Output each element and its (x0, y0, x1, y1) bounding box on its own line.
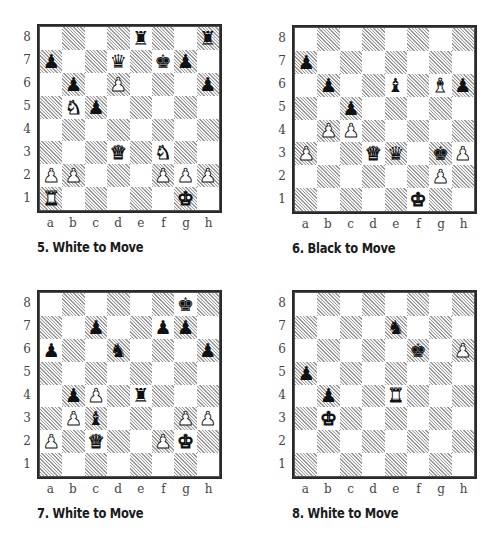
file-label: f (152, 482, 175, 496)
square-d7: ♛ (107, 50, 129, 73)
file-label: e (130, 482, 153, 496)
square-a6: ♟ (40, 339, 62, 362)
square-b1 (62, 453, 84, 476)
square-e6 (130, 339, 152, 362)
square-b2 (317, 165, 339, 188)
file-label: c (84, 482, 107, 496)
file-labels: abcdefgh (39, 216, 220, 230)
square-d6: ♞ (107, 339, 129, 362)
rank-label: 6 (276, 73, 288, 96)
diagram-5: 87654321 ♜♜♟♛♚♟♟♟♟♞♟♛♞♟♟♟♟♟♜♚ abcdefgh 5… (21, 11, 261, 281)
white-pawn-icon: ♟ (298, 144, 315, 163)
square-d7 (362, 316, 384, 339)
square-a1 (295, 453, 317, 476)
square-d7 (107, 316, 129, 339)
square-c8 (340, 293, 362, 316)
black-rook-icon: ♜ (199, 29, 216, 48)
square-f2 (407, 165, 429, 188)
rank-label: 7 (276, 50, 288, 73)
file-label: g (430, 482, 453, 496)
black-queen-icon: ♛ (387, 144, 404, 163)
square-b1 (317, 453, 339, 476)
file-label: b (62, 216, 85, 230)
black-king-icon: ♚ (155, 52, 172, 71)
file-label: f (407, 482, 430, 496)
square-a6 (295, 74, 317, 97)
square-h6: ♟ (197, 339, 219, 362)
square-e7 (130, 316, 152, 339)
rank-label: 5 (276, 361, 288, 384)
square-e8 (385, 28, 407, 51)
black-pawn-icon: ♟ (177, 318, 194, 337)
square-c6 (85, 73, 107, 96)
square-g2: ♟ (429, 165, 451, 188)
square-g2: ♟ (174, 164, 196, 187)
square-c7 (340, 316, 362, 339)
white-pawn-icon: ♟ (110, 75, 127, 94)
black-pawn-icon: ♟ (65, 75, 82, 94)
white-rook-icon: ♜ (387, 386, 404, 405)
square-c8 (340, 28, 362, 51)
black-rook-icon: ♜ (132, 386, 149, 405)
chessboard: ♚♟♟♟♟♞♟♟♟♜♟♝♟♟♟♛♟♚ (40, 293, 219, 476)
square-e5 (385, 362, 407, 385)
square-g5 (429, 97, 451, 120)
square-b6: ♟ (62, 73, 84, 96)
square-a4 (295, 120, 317, 143)
square-d7 (362, 51, 384, 74)
rank-label: 6 (276, 338, 288, 361)
white-pawn-icon: ♟ (177, 409, 194, 428)
square-f6: ♚ (407, 339, 429, 362)
square-a8 (40, 293, 62, 316)
square-d2 (362, 430, 384, 453)
square-h6: ♟ (452, 339, 474, 362)
square-g3: ♟ (174, 407, 196, 430)
square-d2 (362, 165, 384, 188)
square-f3: ♞ (152, 141, 174, 164)
square-h5 (197, 96, 219, 119)
square-b2: ♟ (62, 164, 84, 187)
square-e6: ♝ (385, 74, 407, 97)
black-king-icon: ♚ (432, 144, 449, 163)
square-c3 (340, 407, 362, 430)
square-g3 (174, 141, 196, 164)
file-label: d (107, 482, 130, 496)
rank-label: 5 (276, 96, 288, 119)
square-g4 (174, 385, 196, 408)
rank-label: 2 (21, 429, 33, 452)
white-pawn-icon: ♟ (454, 341, 471, 360)
rank-label: 4 (21, 118, 33, 141)
square-d5 (107, 362, 129, 385)
square-h1 (452, 188, 474, 211)
square-h2 (452, 430, 474, 453)
square-d4 (107, 119, 129, 142)
rank-label: 7 (21, 49, 33, 72)
square-b2 (317, 430, 339, 453)
square-c2 (340, 165, 362, 188)
square-a7 (295, 316, 317, 339)
square-a6 (295, 339, 317, 362)
black-bishop-icon: ♝ (87, 409, 104, 428)
rank-label: 2 (21, 163, 33, 186)
rank-label: 1 (276, 452, 288, 475)
rank-label: 3 (21, 406, 33, 429)
white-pawn-icon: ♟ (177, 166, 194, 185)
square-c8 (85, 293, 107, 316)
square-c8 (85, 27, 107, 50)
square-b8 (62, 293, 84, 316)
white-knight-icon: ♞ (155, 143, 172, 162)
rank-label: 8 (276, 27, 288, 50)
square-f1 (152, 187, 174, 210)
square-f4 (407, 385, 429, 408)
square-f5 (407, 362, 429, 385)
square-e1 (385, 453, 407, 476)
white-pawn-icon: ♟ (65, 166, 82, 185)
square-e8: ♜ (130, 27, 152, 50)
file-label: d (362, 217, 385, 231)
white-pawn-icon: ♟ (65, 409, 82, 428)
square-d4 (362, 120, 384, 143)
square-b3: ♚ (317, 407, 339, 430)
diagram-6: 87654321 ♟♟♝♝♟♟♟♟♟♛♛♚♟♟♚ abcdefgh 6. Bla… (276, 12, 500, 282)
square-e6 (130, 73, 152, 96)
square-h7 (197, 316, 219, 339)
